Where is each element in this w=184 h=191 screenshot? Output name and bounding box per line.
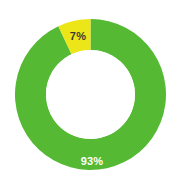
donut-hole	[46, 50, 135, 139]
donut-chart-svg	[0, 0, 184, 191]
donut-chart: 7% 93%	[0, 0, 184, 191]
